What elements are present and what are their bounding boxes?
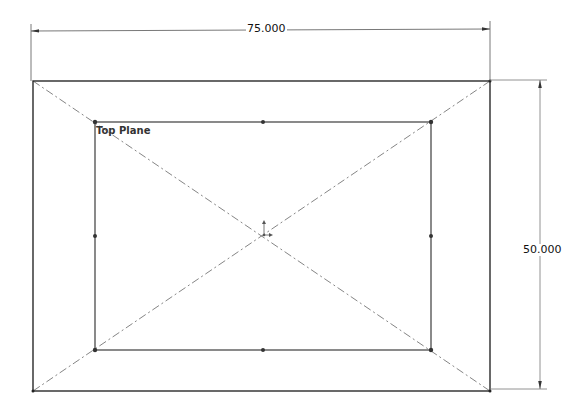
outer-corner-br[interactable] [489, 390, 492, 393]
dimension-width-value[interactable]: 75.000 [246, 23, 287, 35]
origin-icon [262, 220, 273, 237]
midpoint-top[interactable] [261, 120, 265, 124]
corner-point-tr[interactable] [429, 120, 433, 124]
sketch-canvas[interactable] [0, 0, 588, 413]
corner-point-bl[interactable] [93, 348, 97, 352]
midpoint-left[interactable] [93, 234, 97, 238]
dimension-height[interactable] [490, 80, 547, 389]
corner-point-tl[interactable] [93, 120, 97, 124]
midpoint-right[interactable] [429, 234, 433, 238]
midpoint-bottom[interactable] [261, 348, 265, 352]
inner-rectangle[interactable] [95, 122, 431, 350]
corner-point-br[interactable] [429, 348, 433, 352]
outer-corner-bl[interactable] [32, 390, 35, 393]
plane-label: Top Plane [96, 125, 150, 136]
dimension-height-value[interactable]: 50.000 [522, 244, 563, 256]
